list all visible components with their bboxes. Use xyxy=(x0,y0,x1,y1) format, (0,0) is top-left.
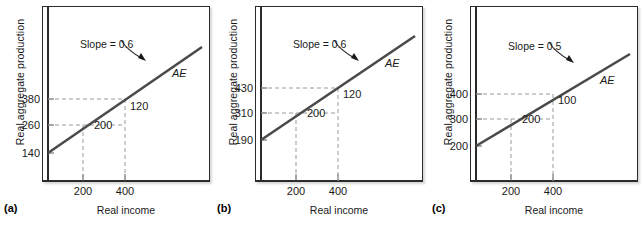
rise-annotation: 120 xyxy=(130,100,148,112)
slope-arrowhead-a xyxy=(138,53,146,61)
x-axis-title: Real income xyxy=(42,204,210,216)
series-label-ae: AE xyxy=(172,67,187,79)
y-tick-label: 140 xyxy=(0,147,40,159)
chart-panel-a: 380 260 140 200 400 Slope = 0.6 AE 200 1… xyxy=(0,0,213,225)
series-label-ae: AE xyxy=(385,57,400,69)
rise-annotation: 100 xyxy=(558,94,576,106)
panel-letter: (b) xyxy=(217,202,231,214)
chart-panel-c: 400 300 200 200 400 Slope = 0.5 AE 200 1… xyxy=(428,0,641,225)
slope-annotation: Slope = 0.6 xyxy=(293,38,346,50)
slope-arrowhead-b xyxy=(351,53,359,61)
slope-annotation: Slope = 0.6 xyxy=(80,38,133,50)
series-label-ae: AE xyxy=(600,74,615,86)
rise-annotation: 120 xyxy=(343,88,361,100)
x-tick-label: 200 xyxy=(63,185,103,197)
run-annotation: 200 xyxy=(522,113,540,125)
run-annotation: 200 xyxy=(307,107,325,119)
run-annotation: 200 xyxy=(94,119,112,131)
plot-area-b xyxy=(255,6,423,182)
panel-letter: (c) xyxy=(432,202,445,214)
plot-area-a xyxy=(42,6,210,182)
x-tick-labels-c: 200 400 xyxy=(470,185,638,201)
y-axis-title: Real aggregate production xyxy=(227,17,239,147)
panel-letter: (a) xyxy=(4,202,17,214)
y-axis-title: Real aggregate production xyxy=(442,17,454,147)
x-tick-label: 400 xyxy=(105,185,145,197)
x-tick-label: 200 xyxy=(491,185,531,197)
chart-panel-b: 430 310 190 200 400 Slope = 0.6 AE 200 1… xyxy=(213,0,426,225)
x-tick-label: 200 xyxy=(276,185,316,197)
x-tick-labels-b: 200 400 xyxy=(255,185,423,201)
x-tick-label: 400 xyxy=(533,185,573,197)
x-tick-label: 400 xyxy=(318,185,358,197)
y-axis-title: Real aggregate production xyxy=(14,17,26,147)
plot-area-c xyxy=(470,6,638,182)
slope-arrowhead-c xyxy=(566,55,574,63)
x-tick-labels-a: 200 400 xyxy=(42,185,210,201)
figure-aggregate-expenditure: 380 260 140 200 400 Slope = 0.6 AE 200 1… xyxy=(0,0,643,225)
slope-annotation: Slope = 0.5 xyxy=(508,40,561,52)
x-axis-title: Real income xyxy=(255,204,423,216)
x-axis-title: Real income xyxy=(470,204,638,216)
